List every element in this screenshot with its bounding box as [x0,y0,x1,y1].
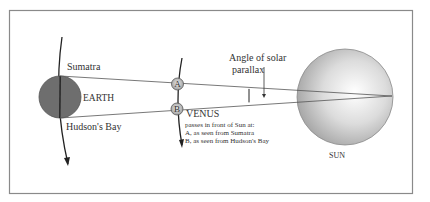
venus-marker-a: A [172,78,184,90]
label-angle-line1: Angle of solar [229,52,287,63]
label-hudsons-bay: Hudson's Bay [66,121,121,132]
diagram-canvas: A B Sumatra EARTH Hudson's Bay VENUS pas… [0,0,430,202]
venus-caption-line3: B, as seen from Hudson's Bay [185,137,270,145]
venus-caption-line2: A, as seen from Sumatra [185,129,255,137]
label-sumatra: Sumatra [67,61,101,72]
venus-marker-b: B [171,103,183,115]
label-earth: EARTH [83,93,114,103]
label-sun: SUN [329,151,345,160]
label-venus: VENUS [186,108,219,119]
marker-a-label: A [174,79,181,89]
marker-b-label: B [174,104,180,114]
label-angle-line2: parallax [232,64,264,75]
venus-caption-line1: passes in front of Sun at: [185,121,254,129]
